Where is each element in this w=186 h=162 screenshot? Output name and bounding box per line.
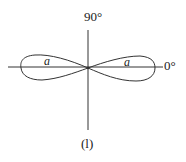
origin-point — [87, 67, 89, 69]
angle-label-0: 0° — [164, 58, 176, 73]
right-lobe — [88, 56, 155, 81]
polar-pattern-diagram: 90° 0° a a (l) — [0, 0, 186, 162]
caption: (l) — [81, 136, 93, 151]
lobe-label-left: a — [44, 54, 50, 68]
lobe-label-right: a — [124, 55, 130, 69]
angle-label-90: 90° — [84, 9, 102, 24]
